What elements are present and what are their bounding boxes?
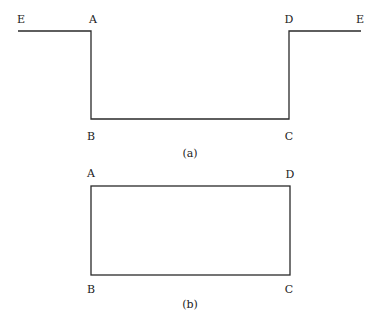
- label-b-c: C: [285, 284, 293, 295]
- figure-a-path: [18, 31, 361, 119]
- caption-a: (a): [182, 148, 197, 159]
- caption-b: (b): [182, 299, 198, 310]
- label-b-b: B: [87, 284, 95, 295]
- label-a-b: B: [87, 131, 95, 142]
- figure-b-rectangle: [91, 186, 290, 275]
- label-a-d: D: [285, 14, 294, 25]
- label-a-a: A: [89, 14, 97, 25]
- diagram-canvas: [0, 0, 377, 321]
- label-a-e-left: E: [17, 14, 25, 25]
- label-b-a: A: [87, 168, 95, 179]
- label-a-e-right: E: [356, 14, 364, 25]
- label-b-d: D: [286, 169, 295, 180]
- label-a-c: C: [285, 131, 293, 142]
